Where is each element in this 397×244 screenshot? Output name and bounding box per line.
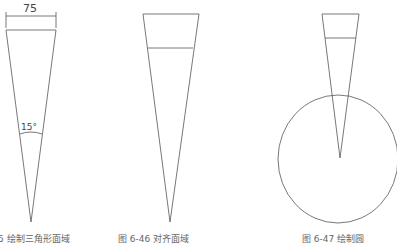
right-triangle-circle bbox=[278, 14, 397, 223]
middle-triangle bbox=[143, 14, 199, 222]
angle-label: 15° bbox=[21, 122, 37, 132]
dimension-label: 75 bbox=[23, 2, 37, 15]
caption-left: 5 绘制三角形面域 bbox=[0, 232, 70, 244]
caption-right: 图 6-47 绘制圆 bbox=[302, 232, 364, 244]
caption-middle: 图 6-46 对齐面域 bbox=[118, 232, 189, 244]
left-triangle bbox=[6, 12, 56, 222]
diagram-canvas bbox=[0, 0, 397, 244]
